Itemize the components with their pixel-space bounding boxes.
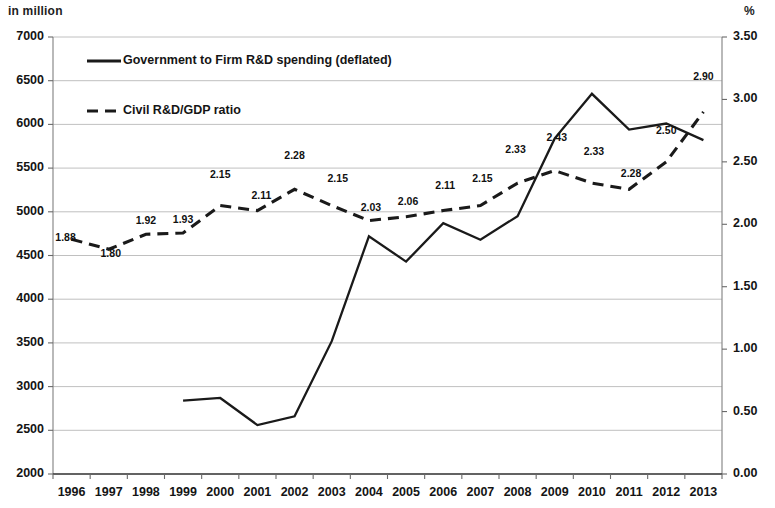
data-point-label: 1.80: [95, 247, 127, 259]
data-point-label: 2.03: [355, 201, 387, 213]
legend-marks-group: [87, 61, 121, 111]
x-axis-tick-label: 2013: [681, 485, 725, 499]
left-axis-tick-label: 2000: [0, 466, 44, 480]
data-point-label: 2.11: [429, 179, 461, 191]
left-axis-tick-label: 2500: [0, 422, 44, 436]
data-point-label: 2.90: [687, 70, 719, 82]
data-point-label: 2.15: [322, 172, 354, 184]
legend-label-series2: Civil R&D/GDP ratio: [123, 103, 241, 117]
left-axis-tick-label: 5000: [0, 204, 44, 218]
left-axis-tick-label: 5500: [0, 160, 44, 174]
data-point-label: 2.33: [578, 145, 610, 157]
right-axis-tick-label: 0.50: [733, 404, 775, 418]
data-point-label: 2.15: [204, 168, 236, 180]
data-point-label: 2.50: [650, 124, 682, 136]
right-axis-tick-label: 1.50: [733, 279, 775, 293]
right-axis-tick-label: 0.00: [733, 466, 775, 480]
data-point-label: 1.88: [50, 231, 82, 243]
left-axis-tick-label: 4000: [0, 291, 44, 305]
right-axis-tick-label: 1.00: [733, 341, 775, 355]
data-point-label: 1.93: [167, 213, 199, 225]
left-axis-tick-label: 6000: [0, 116, 44, 130]
right-axis-tick-label: 2.00: [733, 216, 775, 230]
data-point-label: 2.43: [541, 131, 573, 143]
series-civil-rd-gdp-ratio-line: [72, 112, 704, 249]
chart-container: in million % 700065006000550050004500400…: [0, 0, 775, 508]
right-axis-tick-label: 2.50: [733, 154, 775, 168]
data-point-label: 2.06: [392, 195, 424, 207]
left-axis-tick-label: 7000: [0, 29, 44, 43]
right-axis-tick-label: 3.50: [733, 29, 775, 43]
data-point-label: 2.15: [466, 172, 498, 184]
data-point-label: 2.28: [615, 167, 647, 179]
left-axis-tick-label: 4500: [0, 248, 44, 262]
data-point-label: 2.11: [245, 189, 277, 201]
legend-label-series1: Government to Firm R&D spending (deflate…: [123, 53, 392, 67]
series-government-to-firm-spending-line: [183, 94, 703, 425]
left-axis-tick-label: 3500: [0, 335, 44, 349]
left-axis-tick-label: 3000: [0, 379, 44, 393]
data-point-label: 2.28: [279, 149, 311, 161]
left-axis-tick-label: 6500: [0, 73, 44, 87]
right-axis-tick-label: 3.00: [733, 91, 775, 105]
data-point-label: 1.92: [130, 214, 162, 226]
data-point-label: 2.33: [500, 143, 532, 155]
